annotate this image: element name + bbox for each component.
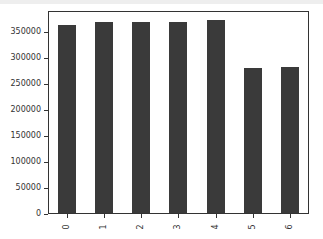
- y-tick-label: 0: [36, 208, 41, 220]
- y-tick-mark: [44, 188, 48, 189]
- x-tick-label: 3: [173, 222, 183, 232]
- plot-area: [48, 11, 309, 214]
- x-tick-mark: [178, 214, 179, 218]
- bar-1: [95, 22, 113, 213]
- bar-3: [169, 22, 187, 213]
- y-tick-label: 350000: [10, 26, 41, 38]
- y-tick-mark: [44, 58, 48, 59]
- bar-2: [132, 22, 150, 213]
- y-tick-mark: [44, 162, 48, 163]
- bar-5: [244, 68, 262, 213]
- bar-6: [281, 67, 299, 213]
- bar-0: [58, 25, 76, 213]
- bar-4: [207, 20, 225, 213]
- x-tick-label: 4: [211, 222, 221, 232]
- y-tick-label: 100000: [10, 156, 41, 168]
- x-tick-mark: [104, 214, 105, 218]
- x-tick-mark: [253, 214, 254, 218]
- y-tick-mark: [44, 110, 48, 111]
- y-tick-label: 250000: [10, 78, 41, 90]
- y-tick-mark: [44, 32, 48, 33]
- x-tick-label: 6: [285, 222, 295, 232]
- x-tick-label: 5: [248, 222, 258, 232]
- y-tick-mark: [44, 214, 48, 215]
- x-tick-label: 1: [99, 222, 109, 232]
- top-band: [0, 0, 323, 4]
- y-tick-label: 150000: [10, 130, 41, 142]
- x-tick-mark: [290, 214, 291, 218]
- y-tick-mark: [44, 84, 48, 85]
- x-tick-label: 0: [62, 222, 72, 232]
- x-tick-mark: [67, 214, 68, 218]
- x-tick-label: 2: [136, 222, 146, 232]
- y-tick-mark: [44, 136, 48, 137]
- x-tick-mark: [216, 214, 217, 218]
- y-tick-label: 200000: [10, 104, 41, 116]
- y-tick-label: 50000: [16, 182, 41, 194]
- y-tick-label: 300000: [10, 52, 41, 64]
- x-tick-mark: [141, 214, 142, 218]
